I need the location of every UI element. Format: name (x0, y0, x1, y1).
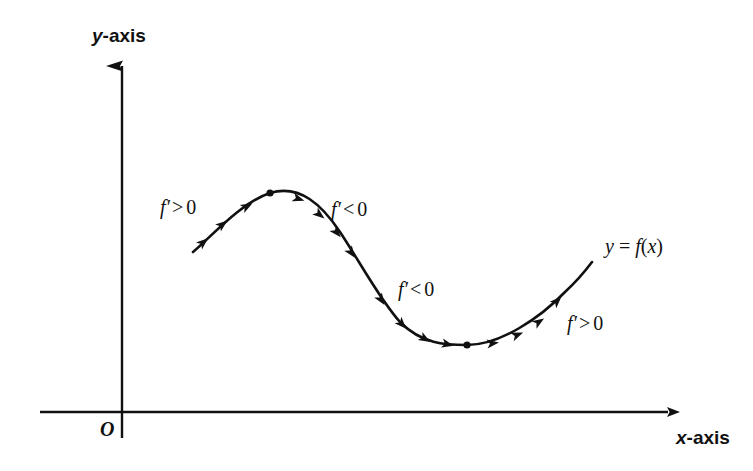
figure-canvas: y-axis x-axis O (0, 0, 753, 471)
annotation-value: 0 (424, 278, 434, 300)
function-label-paren-close: ) (656, 235, 663, 258)
y-axis-label: y-axis (91, 25, 146, 46)
annotation-value: 0 (357, 198, 367, 220)
annotation-falling-lower: f′<0 (398, 278, 434, 301)
function-curve (193, 191, 592, 345)
local-maximum-point (266, 189, 273, 196)
annotation-operator: < (343, 198, 354, 220)
function-label-x: x (646, 235, 656, 257)
annotation-operator: > (172, 196, 183, 218)
direction-arrow (418, 332, 433, 346)
local-minimum-point (463, 341, 470, 348)
annotation-value: 0 (186, 196, 196, 218)
annotation-value: 0 (593, 312, 603, 334)
derivative-annotations: f′>0 f′<0 f′<0 f′>0 (160, 196, 603, 335)
function-label-equals: = (614, 235, 635, 257)
y-axis-label-suffix: -axis (103, 25, 146, 46)
direction-arrow (329, 225, 344, 240)
annotation-falling-upper: f′<0 (331, 198, 367, 221)
annotation-prime-symbol: ′ (337, 198, 342, 220)
annotation-prime-symbol: ′ (404, 278, 409, 300)
x-axis-label: x-axis (675, 427, 730, 448)
curve-group (193, 189, 592, 350)
x-axis-label-suffix: -axis (687, 427, 730, 448)
function-label-y: y (603, 235, 614, 258)
origin-label: O (100, 418, 114, 440)
function-label: y = f(x) (603, 235, 663, 258)
annotation-prime-symbol: ′ (166, 196, 171, 218)
annotation-operator: > (579, 312, 590, 334)
annotation-operator: < (410, 278, 421, 300)
derivative-sign-diagram: y-axis x-axis O (0, 0, 753, 471)
direction-arrow (312, 207, 327, 222)
annotation-rising-left: f′>0 (160, 196, 196, 219)
direction-arrowheads (196, 193, 565, 351)
annotation-rising-right: f′>0 (567, 312, 603, 335)
direction-arrow (531, 315, 546, 329)
annotation-prime-symbol: ′ (573, 312, 578, 334)
